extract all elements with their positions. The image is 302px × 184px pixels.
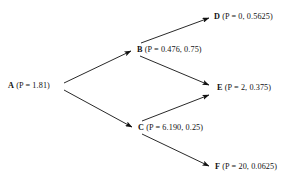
edge-a-to-b — [64, 51, 131, 83]
edge-c-to-e — [142, 95, 209, 121]
node-b-value: (P = 0.476, 0.75) — [145, 45, 202, 54]
node-c: C (P = 6.190, 0.25) — [138, 124, 203, 132]
node-b-key: B — [137, 45, 143, 54]
edge-a-to-c — [64, 90, 132, 127]
node-f: F (P = 20, 0.0625) — [215, 163, 277, 171]
node-c-value: (P = 6.190, 0.25) — [146, 123, 203, 132]
node-a-value: (P = 1.81) — [16, 81, 50, 90]
node-e-key: E — [217, 83, 223, 92]
node-b: B (P = 0.476, 0.75) — [137, 46, 202, 54]
edge-b-to-d — [141, 18, 209, 43]
node-d: D (P = 0, 0.5625) — [214, 13, 273, 21]
edge-b-to-e — [140, 56, 209, 85]
node-e: E (P = 2, 0.375) — [217, 84, 271, 92]
node-d-value: (P = 0, 0.5625) — [222, 12, 273, 21]
node-c-key: C — [138, 123, 144, 132]
node-a: A (P = 1.81) — [8, 82, 50, 90]
node-f-key: F — [215, 162, 220, 171]
node-a-key: A — [8, 81, 14, 90]
node-e-value: (P = 2, 0.375) — [225, 83, 271, 92]
node-d-key: D — [214, 12, 220, 21]
probability-tree-diagram: A (P = 1.81) B (P = 0.476, 0.75) C (P = … — [0, 0, 302, 184]
edge-c-to-f — [142, 134, 209, 166]
node-f-value: (P = 20, 0.0625) — [222, 162, 277, 171]
